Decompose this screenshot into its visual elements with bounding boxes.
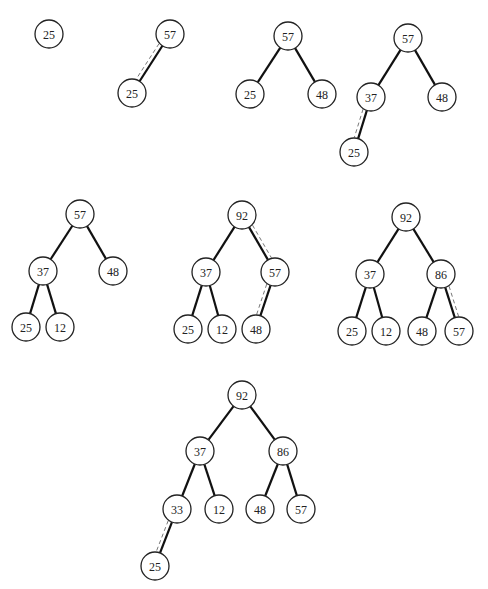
tree-node: 37 [357,83,385,111]
node-label: 37 [37,265,49,279]
heap-tree-step-3: 572548 [236,22,336,108]
tree-edge [378,50,400,85]
node-label: 12 [54,321,66,335]
tree-node: 48 [99,257,127,285]
tree-edge [210,285,218,315]
heap-tree-step-1: 25 [35,20,63,48]
tree-node: 12 [372,317,400,345]
node-label: 48 [436,91,448,105]
node-label: 48 [250,323,262,337]
node-label: 57 [453,325,465,339]
node-label: 92 [236,389,248,403]
node-label: 25 [149,560,161,574]
node-label: 12 [216,323,228,337]
heap-tree-step-4: 57374825 [340,24,456,166]
node-label: 37 [365,91,377,105]
node-label: 57 [282,30,294,44]
tree-edge [213,227,234,260]
tree-node: 25 [236,80,264,108]
tree-edge [295,48,315,82]
tree-node: 25 [12,313,40,341]
heap-tree-step-6: 923757251248 [174,201,289,343]
tree-node: 57 [66,200,94,228]
tree-node: 25 [338,317,366,345]
tree-node: 48 [428,83,456,111]
tree-edge [260,285,270,315]
tree-node: 48 [246,495,274,523]
tree-node: 86 [269,437,297,465]
tree-edge [250,406,274,439]
tree-node: 37 [356,260,384,288]
tree-node: 57 [156,20,184,48]
tree-edge [160,522,172,553]
tree-edge [426,287,436,317]
node-label: 12 [380,325,392,339]
node-label: 25 [20,321,32,335]
tree-edge [51,226,73,260]
tree-node: 12 [205,495,233,523]
tree-node: 37 [186,437,214,465]
tree-edge [377,229,398,262]
node-label: 48 [254,503,266,517]
swap-path-indicator [252,225,271,258]
tree-node: 57 [445,317,473,345]
tree-node: 25 [35,20,63,48]
tree-node: 33 [163,495,191,523]
heap-tree-step-2: 5725 [118,20,184,107]
tree-node: 57 [287,495,315,523]
node-label: 57 [269,266,281,280]
tree-edge [87,226,106,259]
tree-node: 48 [408,317,436,345]
tree-node: 37 [29,257,57,285]
tree-edge [182,464,195,496]
node-label: 86 [277,445,289,459]
tree-edge [258,48,281,83]
node-label: 48 [316,88,328,102]
node-label: 37 [364,268,376,282]
tree-node: 48 [308,80,336,108]
tree-edge [204,464,214,495]
tree-node: 86 [427,260,455,288]
node-label: 57 [74,208,86,222]
tree-node: 25 [118,79,146,107]
tree-edge [249,227,268,260]
tree-edge [30,284,39,313]
tree-node: 48 [242,315,270,343]
heap-construction-diagram: 2557255725485737482557374825129237572512… [0,0,488,589]
tree-edge [413,229,433,262]
tree-node: 92 [392,203,420,231]
tree-edge [208,406,233,440]
heap-tree-step-8: 9237863312485725 [141,381,315,580]
node-label: 25 [244,88,256,102]
tree-edge [445,287,455,317]
tree-node: 25 [141,552,169,580]
tree-node: 12 [46,313,74,341]
tree-edge [265,464,278,496]
heap-tree-step-7: 92378625124857 [338,203,473,345]
tree-node: 12 [208,315,236,343]
tree-edge [356,287,366,317]
tree-edge [47,284,56,313]
node-label: 12 [213,503,225,517]
node-label: 48 [107,265,119,279]
swap-path-indicator [136,44,159,79]
tree-node: 57 [394,24,422,52]
tree-edge [287,464,297,495]
node-label: 57 [402,32,414,46]
tree-node: 92 [228,201,256,229]
node-label: 37 [200,266,212,280]
tree-node: 25 [174,315,202,343]
node-label: 33 [171,503,183,517]
heap-tree-step-5: 5737482512 [12,200,127,341]
node-label: 92 [400,211,412,225]
tree-node: 57 [261,258,289,286]
tree-node: 37 [192,258,220,286]
node-label: 57 [164,28,176,42]
node-label: 25 [43,28,55,42]
node-label: 25 [182,323,194,337]
tree-edge [140,46,163,81]
node-label: 25 [126,87,138,101]
tree-edge [358,110,367,138]
tree-edge [415,50,435,85]
node-label: 86 [435,268,447,282]
